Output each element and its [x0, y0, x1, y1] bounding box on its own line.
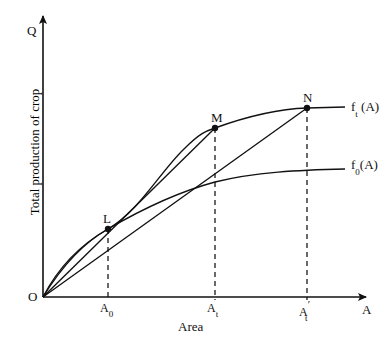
y-axis-letter: Q	[27, 24, 36, 37]
y-axis-title-wrapper: Total production of crop	[25, 72, 43, 232]
x-axis-letter: A	[362, 303, 371, 316]
curve-label-ft: ft (A)	[351, 100, 379, 117]
data-point-L	[105, 226, 111, 232]
xtick-A0-base: A	[100, 301, 109, 315]
xtick-Atp-prime: ′	[308, 298, 310, 310]
point-label-L: L	[103, 212, 111, 225]
xtick-A0-subscript: 0	[109, 309, 114, 319]
xtick-label-At: At	[207, 302, 218, 317]
curve-ft-tail: (A)	[358, 99, 379, 114]
curve-f0-subscript: 0	[355, 167, 360, 177]
x-axis-title: Area	[178, 320, 203, 333]
y-axis-title: Total production of crop	[27, 89, 42, 216]
ray-origin-to-N	[43, 108, 307, 297]
data-point-N	[304, 105, 310, 111]
point-label-N: N	[303, 91, 312, 104]
curve-ft	[43, 107, 345, 297]
xtick-At-subscript: t	[216, 309, 219, 319]
ray-origin-to-M	[43, 128, 215, 297]
curve-f0-tail: (A)	[360, 157, 378, 172]
xtick-At-base: A	[207, 301, 216, 315]
curve-label-f0: f0(A)	[351, 158, 378, 175]
xtick-label-A0: A0	[100, 302, 113, 317]
chart-figure: Q O A Total production of crop Area L M …	[0, 0, 389, 344]
data-point-M	[212, 125, 218, 131]
xtick-label-At-prime: A′t	[299, 302, 313, 321]
point-label-M: M	[211, 111, 223, 124]
curve-ft-subscript: t	[355, 109, 358, 119]
origin-label: O	[28, 290, 37, 303]
chart-canvas	[0, 0, 389, 344]
xtick-Atp-subscript: t	[305, 313, 308, 323]
